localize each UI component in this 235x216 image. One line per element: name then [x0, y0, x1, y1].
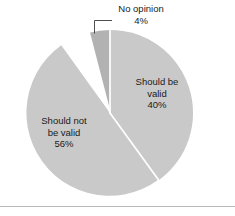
pie-label-no-opinion-percent: 4% [104, 15, 178, 27]
pie-label-should-not-be-valid-line2: be valid [27, 127, 101, 139]
pie-label-should-be-valid-line1: Should be [126, 76, 188, 88]
pie-label-should-be-valid-percent: 40% [126, 99, 188, 111]
pie-label-no-opinion: No opinion 4% [104, 3, 178, 26]
pie-label-should-be-valid: Should be valid 40% [126, 76, 188, 111]
bottom-divider-rule [0, 206, 235, 207]
pie-chart-figure: Should be valid 40% Should not be valid … [0, 0, 235, 216]
pie-label-no-opinion-line1: No opinion [104, 3, 178, 15]
pie-label-should-not-be-valid: Should not be valid 56% [27, 115, 101, 150]
pie-label-should-not-be-valid-percent: 56% [27, 138, 101, 150]
pie-label-should-not-be-valid-line1: Should not [27, 115, 101, 127]
pie-label-should-be-valid-line2: valid [126, 88, 188, 100]
pie-chart-graphic [0, 0, 235, 216]
